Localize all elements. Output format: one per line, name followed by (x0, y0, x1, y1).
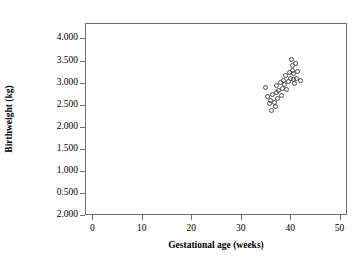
y-axis-tick-labels: 4.0003.5003.0002.5002.0001.5001.0000.500… (22, 23, 78, 215)
x-axis-tick-mark (340, 215, 341, 220)
scatter-points-layer (86, 24, 346, 214)
scatter-point (292, 81, 297, 86)
x-axis-tick-mark (92, 215, 93, 220)
x-axis-tick-mark (241, 215, 242, 220)
plot-area (85, 23, 347, 215)
scatter-point (273, 104, 278, 109)
scatter-point (295, 69, 300, 74)
y-axis-tick-label: 2.500 (32, 100, 78, 110)
y-axis-tick-label: 1.000 (32, 166, 78, 176)
x-axis-tick-label: 50 (320, 224, 360, 234)
y-axis-tick-label: 1.500 (32, 144, 78, 154)
x-axis-tick-label: 30 (221, 224, 261, 234)
scatter-point (284, 87, 289, 92)
y-axis-tick-label: 2.000 (32, 210, 78, 220)
y-axis-title: Birthweight (kg) (5, 85, 15, 152)
x-axis-tick-marks (85, 215, 347, 221)
x-axis-tick-label: 10 (122, 224, 162, 234)
y-axis-tick-label: 3.000 (32, 78, 78, 88)
scatter-point (298, 78, 303, 83)
x-axis-tick-label: 40 (270, 224, 310, 234)
x-axis-title: Gestational age (weeks) (85, 240, 347, 250)
y-axis-tick-label: 3.500 (32, 56, 78, 66)
y-axis-tick-label: 0.500 (32, 188, 78, 198)
x-axis-tick-labels: 01020304050 (85, 224, 347, 238)
scatter-plot-figure: Birthweight (kg) 4.0003.5003.0002.5002.0… (0, 0, 362, 268)
x-axis-tick-mark (290, 215, 291, 220)
x-axis-tick-mark (142, 215, 143, 220)
scatter-point (263, 85, 268, 90)
x-axis-tick-label: 0 (72, 224, 112, 234)
scatter-point (279, 93, 284, 98)
x-axis-tick-label: 20 (171, 224, 211, 234)
y-axis-tick-label: 2.000 (32, 122, 78, 132)
y-axis-tick-label: 4.000 (32, 34, 78, 44)
scatter-point (293, 61, 298, 66)
x-axis-tick-mark (191, 215, 192, 220)
scatter-point (269, 108, 274, 113)
y-axis-title-container: Birthweight (kg) (0, 23, 20, 215)
